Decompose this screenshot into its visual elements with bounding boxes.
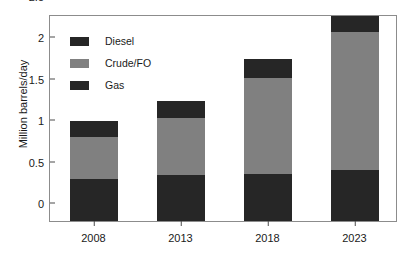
y-axis-tick-label: 0.5 <box>29 157 50 169</box>
y-axis-tick-mark <box>50 203 55 204</box>
x-axis-tick: 2018 <box>255 221 279 244</box>
bar-segment-gas <box>331 170 379 221</box>
y-axis-tick: 0 <box>38 194 50 212</box>
bar-2018 <box>244 59 292 221</box>
bar-2013 <box>157 101 205 221</box>
bar-segment-diesel <box>157 101 205 118</box>
y-axis-tick-label: 2 <box>38 32 50 44</box>
bar-segment-crude-fo <box>331 32 379 169</box>
bar-segment-diesel <box>70 121 118 138</box>
x-axis-tick: 2023 <box>342 221 366 244</box>
chart-legend: DieselCrude/FOGas <box>70 30 151 96</box>
x-axis-tick-mark <box>93 221 94 226</box>
y-axis-tick: 1.5 <box>29 70 50 88</box>
legend-item-label: Crude/FO <box>105 57 151 69</box>
bar-segment-gas <box>244 174 292 221</box>
bar-segment-gas <box>70 179 118 221</box>
legend-item-crude-fo: Crude/FO <box>70 52 151 74</box>
legend-swatch-icon <box>70 37 89 46</box>
x-axis-tick-label: 2008 <box>81 232 105 244</box>
y-axis-tick-mark <box>50 161 55 162</box>
bar-segment-crude-fo <box>157 118 205 176</box>
x-axis-tick-mark <box>180 221 181 226</box>
legend-item-gas: Gas <box>70 74 151 96</box>
bar-2008 <box>70 121 118 221</box>
stacked-bar-chart: Million barrels/day 00.511.522.520082013… <box>0 0 414 265</box>
x-axis-tick-mark <box>267 221 268 226</box>
y-axis-tick-label: 1 <box>38 115 50 127</box>
legend-swatch-icon <box>70 59 89 68</box>
y-axis-tick-mark <box>50 78 55 79</box>
bar-segment-crude-fo <box>244 78 292 174</box>
bar-segment-gas <box>157 175 205 221</box>
x-axis-tick-label: 2018 <box>255 232 279 244</box>
y-axis-tick-label: 1.5 <box>29 74 50 86</box>
legend-item-label: Diesel <box>105 35 134 47</box>
y-axis-tick: 0.5 <box>29 153 50 171</box>
x-axis-tick-mark <box>354 221 355 226</box>
bar-2023 <box>331 16 379 221</box>
y-axis-tick: 2.5 <box>29 0 50 5</box>
y-axis-tick-label: 0 <box>38 198 50 210</box>
y-axis-title: Million barrels/day <box>17 19 29 189</box>
y-axis-tick: 1 <box>38 111 50 129</box>
y-axis-tick-mark <box>50 37 55 38</box>
x-axis-tick-label: 2013 <box>168 232 192 244</box>
legend-swatch-icon <box>70 81 89 90</box>
bar-segment-diesel <box>331 16 379 33</box>
legend-item-diesel: Diesel <box>70 30 151 52</box>
x-axis-tick-label: 2023 <box>342 232 366 244</box>
y-axis-tick: 2 <box>38 28 50 46</box>
y-axis-tick-label: 2.5 <box>29 0 50 3</box>
y-axis-tick-mark <box>50 120 55 121</box>
x-axis-tick: 2008 <box>81 221 105 244</box>
bar-segment-crude-fo <box>70 137 118 178</box>
x-axis-tick: 2013 <box>168 221 192 244</box>
bar-segment-diesel <box>244 59 292 78</box>
legend-item-label: Gas <box>105 79 124 91</box>
